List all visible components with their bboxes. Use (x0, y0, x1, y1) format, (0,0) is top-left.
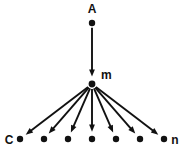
arrowhead-L3 (71, 125, 77, 133)
arrowhead-L4 (89, 125, 95, 132)
edge-m-to-L5 (94, 88, 113, 132)
node-label-n: n (171, 133, 178, 147)
radial-tree-diagram: AmCn (0, 0, 183, 155)
edge-m-to-L4 (89, 89, 95, 132)
node-dot-m (89, 81, 96, 88)
node-dot-n (161, 136, 167, 142)
node-label-m: m (101, 68, 112, 82)
edge-m-to-C (26, 87, 88, 135)
edge-m-to-L3 (71, 88, 90, 132)
node-dot-L6 (137, 136, 143, 142)
node-label-A: A (88, 2, 97, 16)
node-dot-L5 (113, 136, 119, 142)
arrowhead-m (89, 69, 95, 76)
diagram-canvas: AmCn (0, 0, 183, 155)
node-dot-A (89, 20, 95, 26)
node-dot-L3 (65, 136, 71, 142)
arrowhead-L5 (108, 125, 114, 133)
edge-A-to-m (89, 28, 95, 77)
edge-m-to-L2 (49, 88, 89, 134)
node-dot-C (17, 136, 23, 142)
node-dot-L2 (41, 136, 47, 142)
edge-m-to-n (96, 87, 158, 135)
node-label-C: C (5, 133, 14, 147)
edge-m-to-L6 (95, 88, 135, 134)
node-dot-L4 (89, 136, 95, 142)
